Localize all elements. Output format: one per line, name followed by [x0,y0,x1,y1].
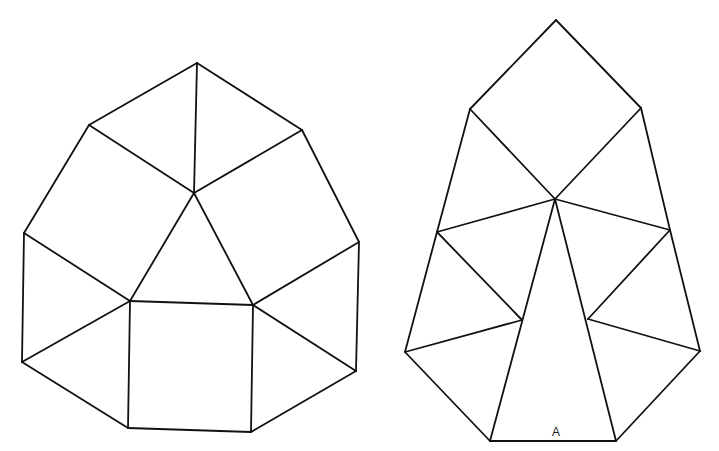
left-polyhedron-net [22,63,359,432]
edge-c-lm [437,199,555,232]
right-polyhedron-net: A [405,20,700,441]
edge-sl-lm [437,109,470,232]
edge-sq_tl-sq_tr [130,301,253,305]
edge-top-sl [470,20,556,109]
edge-ll-bl [405,352,490,441]
edge-sl-c [470,109,555,199]
edge-ul-lm [24,125,89,233]
edge-lm-ll [405,232,437,352]
edge-ur-rm [302,130,359,242]
edge-sq_tr-sq_br [251,305,253,432]
edge-rl-ir [588,319,700,351]
edge-ll-sq_tl [22,301,130,362]
edge-top-c [194,63,197,193]
edge-c-sq_tr [194,193,253,305]
edge-rm-rl [670,230,700,351]
edge-sq_bl-sq_tl [128,301,130,428]
edge-rl-sq_tr [253,305,356,371]
edge-sr-rm [641,108,670,230]
edge-sr-c [555,108,641,199]
edge-top-ur [197,63,302,130]
edge-c-bl [490,199,555,441]
edge-lm-sq_tl [24,233,130,301]
edge-sq_br-sq_bl [128,428,251,432]
polyhedron-nets-diagram: A [0,0,719,451]
edge-top-sr [556,20,641,108]
edge-ll-il [405,320,522,352]
edge-c-sq_tl [130,193,194,301]
edge-c-br [555,199,616,441]
edge-rm-rl [356,242,359,371]
edge-top-ul [89,63,197,125]
face-label-a: A [552,425,560,439]
edge-ul-c [89,125,194,193]
edge-rl-br [616,351,700,441]
edge-lm-il [437,232,522,320]
edge-ll-sq_bl [22,362,128,428]
edge-rl-sq_br [251,371,356,432]
edge-rm-ir [588,230,670,319]
edge-ur-c [194,130,302,193]
edge-lm-ll [22,233,24,362]
edge-c-rm [555,199,670,230]
edge-rm-sq_tr [253,242,359,305]
